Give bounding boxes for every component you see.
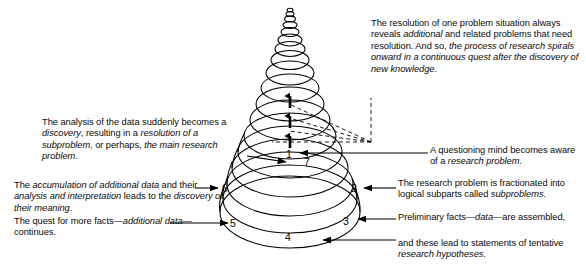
caption-discovery: The analysis of the data suddenly become… xyxy=(42,117,247,163)
dashed-line-1 xyxy=(289,104,371,142)
spiral-loop-tip2 xyxy=(287,8,293,11)
spiral-loop-tip xyxy=(286,12,294,16)
stage-number-2: 2 xyxy=(351,182,357,194)
spiral-loop-3 xyxy=(271,51,309,70)
stage-number-3: 3 xyxy=(343,215,349,227)
caption-accumulation: The accumulation of additional data and … xyxy=(14,180,229,214)
dashed-line-3 xyxy=(289,131,371,142)
caption-quest: The quest for more facts—additional data… xyxy=(14,216,219,239)
caption-fractionated: The research problem is fractionated int… xyxy=(398,178,583,201)
caption-preliminary: Preliminary facts—data—are assembled, xyxy=(398,212,583,223)
stage-number-7: 7 xyxy=(304,156,310,168)
caption-resolution: The resolution of one problem situation … xyxy=(371,18,579,75)
spiral-loop-2b xyxy=(275,42,305,57)
stage-number-5: 5 xyxy=(230,217,236,229)
caption-questioning: A questioning mind becomes aware of a re… xyxy=(430,145,585,168)
stage-number-1: 1 xyxy=(286,148,292,160)
spiral-loop-12 xyxy=(223,165,357,233)
dashed-perspective-lines xyxy=(272,98,371,142)
stage-number-4: 4 xyxy=(285,231,291,243)
spiral-loop-2 xyxy=(278,34,302,46)
caption-statements: and these lead to statements of tentativ… xyxy=(398,238,583,261)
